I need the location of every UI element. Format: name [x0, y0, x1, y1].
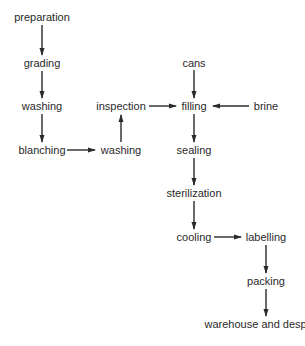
- node-brine: brine: [254, 101, 278, 112]
- node-preparation: preparation: [14, 12, 70, 23]
- node-washing-2: washing: [101, 145, 141, 156]
- node-washing-1: washing: [22, 101, 62, 112]
- flow-arrows: [0, 0, 305, 346]
- node-blanching: blanching: [18, 145, 65, 156]
- node-packing: packing: [247, 276, 285, 287]
- node-warehouse-and-despatch: warehouse and despatch: [205, 319, 305, 330]
- node-filling: filling: [181, 101, 206, 112]
- canning-process-flowchart: preparation grading washing blanching wa…: [0, 0, 305, 346]
- node-sealing: sealing: [177, 145, 212, 156]
- node-sterilization: sterilization: [166, 188, 221, 199]
- node-grading: grading: [24, 58, 61, 69]
- node-labelling: labelling: [246, 232, 286, 243]
- node-inspection: inspection: [96, 101, 146, 112]
- node-cooling: cooling: [177, 232, 212, 243]
- node-cans: cans: [182, 58, 205, 69]
